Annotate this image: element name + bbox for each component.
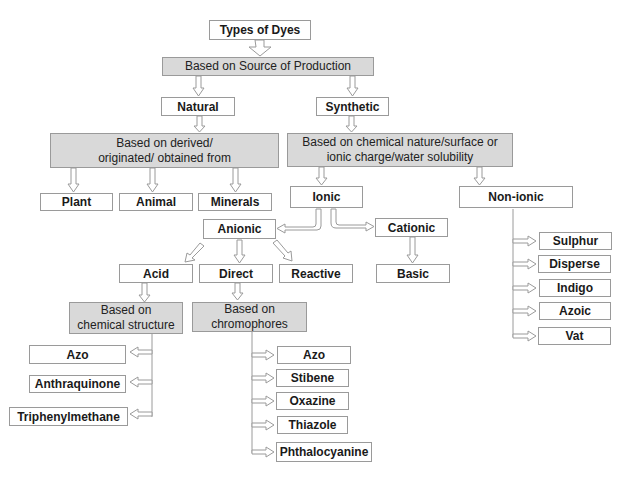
node-natural: Natural <box>161 97 235 116</box>
node-chromophore-stibene: Stibene <box>276 369 349 387</box>
node-minerals: Minerals <box>198 193 272 211</box>
node-animal: Animal <box>119 193 193 211</box>
node-non-ionic: Non-ionic <box>459 186 573 208</box>
node-acid: Acid <box>119 264 193 283</box>
node-chromophore-phthalocyanine: Phthalocyanine <box>276 442 372 462</box>
node-nonionic-azoic: Azoic <box>539 302 611 320</box>
node-chromophore-oxazine: Oxazine <box>276 392 349 410</box>
node-chromophore-thiazole: Thiazole <box>277 416 348 434</box>
node-chemical-nature: Based on chemical nature/surface or ioni… <box>287 133 513 167</box>
node-based-on-chromophores: Based on chromophores <box>192 302 307 332</box>
node-cationic: Cationic <box>375 218 448 237</box>
node-basic: Basic <box>376 264 450 283</box>
node-synthetic: Synthetic <box>316 97 389 116</box>
node-types-of-dyes: Types of Dyes <box>209 20 311 40</box>
node-reactive: Reactive <box>279 264 353 283</box>
node-nonionic-disperse: Disperse <box>538 255 611 273</box>
node-derived-from: Based on derived/ originated/ obtained f… <box>50 133 279 168</box>
node-plant: Plant <box>40 193 113 211</box>
node-nonionic-indigo: Indigo <box>539 279 611 297</box>
node-direct: Direct <box>199 264 273 283</box>
node-structure-anthraquinone: Anthraquinone <box>29 375 126 393</box>
node-structure-triphenylmethane: Triphenylmethane <box>9 407 128 426</box>
node-nonionic-vat: Vat <box>538 327 611 345</box>
node-nonionic-sulphur: Sulphur <box>539 232 612 250</box>
node-source-of-production: Based on Source of Production <box>162 57 374 76</box>
node-based-on-chemical-structure: Based on chemical structure <box>69 302 183 334</box>
node-ionic: Ionic <box>290 186 363 208</box>
node-structure-azo: Azo <box>29 345 126 364</box>
node-chromophore-azo: Azo <box>277 346 351 364</box>
node-anionic: Anionic <box>203 219 276 239</box>
